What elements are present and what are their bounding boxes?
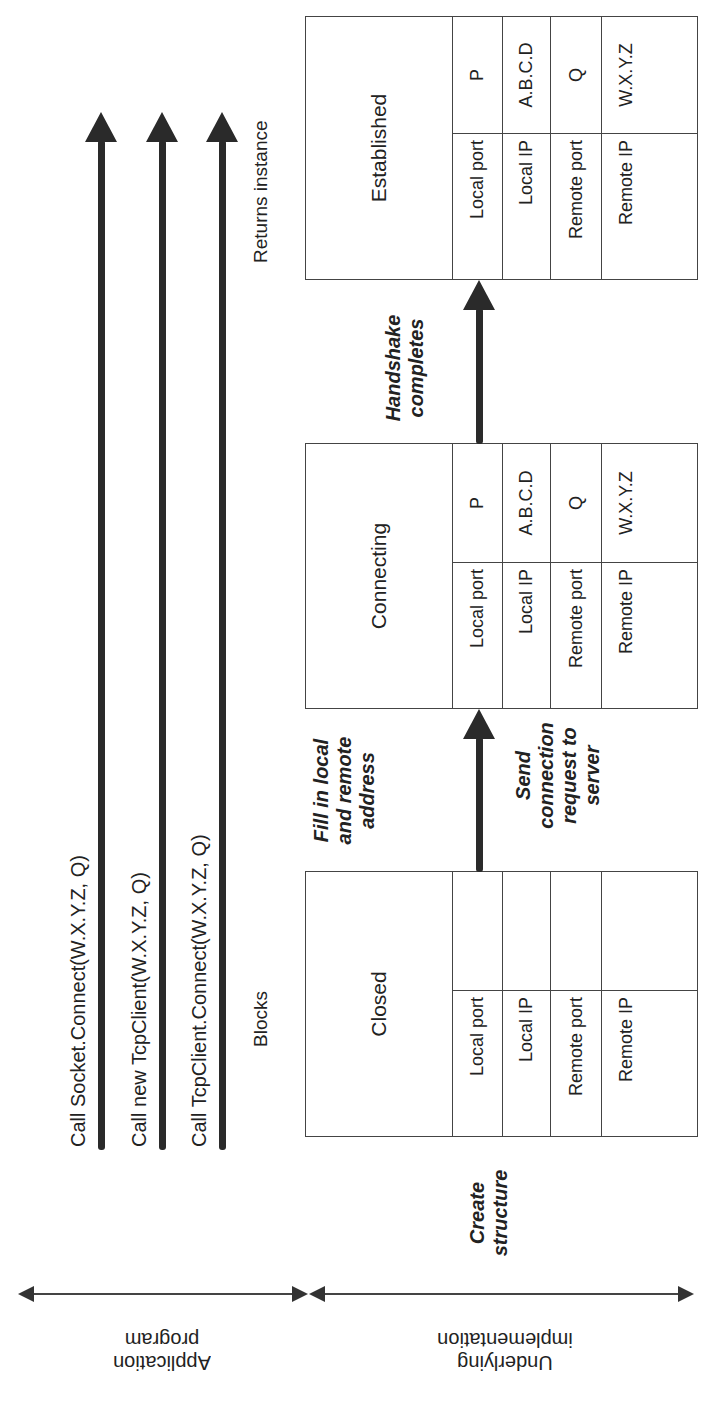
- field-label: Local IP: [503, 562, 550, 708]
- field-value: [551, 872, 601, 990]
- field-row: Remote IPW.X.Y.Z: [601, 444, 697, 708]
- state-title: Connecting: [306, 444, 453, 708]
- state-fields: Local portP Local IPA.B.C.D Remote portQ…: [453, 444, 697, 708]
- arrow-head-icon: [85, 112, 117, 142]
- field-value: A.B.C.D: [503, 444, 550, 562]
- blocks-note: Blocks: [250, 991, 272, 1047]
- field-value: W.X.Y.Z: [602, 17, 697, 133]
- field-value: [503, 872, 550, 990]
- field-label: Remote port: [551, 990, 601, 1136]
- rotated-diagram-canvas: Call Socket.Connect(W.X.Y.Z, Q) Call new…: [0, 0, 717, 1413]
- field-label: Local port: [453, 133, 502, 279]
- field-value: Q: [551, 17, 601, 133]
- field-row: Remote IP: [601, 872, 697, 1136]
- action-handshake-completes: Handshake completes: [382, 303, 428, 433]
- field-row: Local port: [453, 872, 502, 1136]
- layer-label-application: Application program: [92, 1328, 232, 1374]
- arrow-right-icon: [678, 1286, 694, 1302]
- arrow-head-icon: [463, 280, 495, 310]
- action-send-request: Send connection request to server: [512, 713, 604, 838]
- field-value: [602, 872, 697, 990]
- field-row: Local IP: [502, 872, 550, 1136]
- field-value: Q: [551, 444, 601, 562]
- field-row: Local IPA.B.C.D: [502, 444, 550, 708]
- state-title: Closed: [306, 872, 453, 1136]
- arrow-head-icon: [206, 112, 238, 142]
- field-label: Remote IP: [602, 990, 697, 1136]
- field-value: [453, 872, 502, 990]
- field-label: Local port: [453, 562, 502, 708]
- arrow-left-icon: [18, 1286, 34, 1302]
- state-established: Established Local portP Local IPA.B.C.D …: [305, 16, 698, 280]
- field-row: Remote IPW.X.Y.Z: [601, 17, 697, 279]
- state-closed: Closed Local port Local IP Remote port R…: [305, 871, 698, 1137]
- field-row: Local portP: [453, 444, 502, 708]
- field-label: Remote port: [551, 133, 601, 279]
- state-connecting: Connecting Local portP Local IPA.B.C.D R…: [305, 443, 698, 709]
- state-fields: Local port Local IP Remote port Remote I…: [453, 872, 697, 1136]
- call-label-new-tcpclient: Call new TcpClient(W.X.Y.Z, Q): [128, 872, 151, 1147]
- field-row: Remote portQ: [550, 17, 601, 279]
- field-label: Remote IP: [602, 562, 697, 708]
- field-row: Local IPA.B.C.D: [502, 17, 550, 279]
- call-label-socket-connect: Call Socket.Connect(W.X.Y.Z, Q): [67, 855, 90, 1147]
- arrow-head-icon: [146, 112, 178, 142]
- action-create-structure: Create structure: [466, 1153, 512, 1273]
- field-label: Remote IP: [602, 133, 697, 279]
- call-label-tcpclient-connect: Call TcpClient.Connect(W.X.Y.Z, Q): [188, 834, 211, 1147]
- action-fill-address: Fill in local and remote address: [310, 728, 379, 853]
- field-value: P: [453, 444, 502, 562]
- field-label: Remote port: [551, 562, 601, 708]
- field-row: Local portP: [453, 17, 502, 279]
- arrow-head-icon: [463, 709, 495, 739]
- arrow-left-icon: [309, 1286, 325, 1302]
- field-row: Remote portQ: [550, 444, 601, 708]
- state-fields: Local portP Local IPA.B.C.D Remote portQ…: [453, 17, 697, 279]
- state-title: Established: [306, 17, 453, 279]
- arrow-right-icon: [292, 1286, 308, 1302]
- field-label: Local IP: [503, 990, 550, 1136]
- field-value: W.X.Y.Z: [602, 444, 697, 562]
- field-label: Local IP: [503, 133, 550, 279]
- field-row: Remote port: [550, 872, 601, 1136]
- field-label: Local port: [453, 990, 502, 1136]
- returns-instance-note: Returns instance: [250, 120, 272, 263]
- field-value: A.B.C.D: [503, 17, 550, 133]
- layer-label-underlying: Underlying implementation: [410, 1328, 600, 1374]
- field-value: P: [453, 17, 502, 133]
